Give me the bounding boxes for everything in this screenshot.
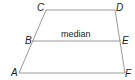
vertex-label-a: A — [11, 68, 18, 78]
median-label: median — [61, 30, 91, 39]
point-label-e: E — [122, 36, 129, 46]
trapezoid-diagram — [0, 0, 135, 80]
vertex-label-c: C — [37, 3, 44, 13]
vertex-label-f: F — [125, 69, 131, 79]
vertex-label-d: D — [116, 3, 123, 13]
point-label-b: B — [25, 36, 32, 46]
